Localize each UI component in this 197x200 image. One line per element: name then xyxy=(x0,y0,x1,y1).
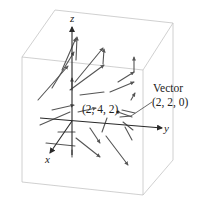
vector-field-figure: z y x (2, 4, 2) Vector (2, 2, 0) xyxy=(0,0,197,200)
coordinate-axes xyxy=(40,27,162,155)
y-axis-label: y xyxy=(163,122,169,134)
vector-components-label: (2, 2, 0) xyxy=(152,96,189,109)
point-label: (2, 4, 2) xyxy=(82,103,119,116)
z-axis-label: z xyxy=(69,12,75,24)
leader-line xyxy=(131,102,152,116)
x-axis-label: x xyxy=(44,153,50,165)
vector-field-arrows xyxy=(38,37,135,165)
y-axis xyxy=(40,118,162,128)
vector-title: Vector xyxy=(153,82,183,94)
x-axis xyxy=(50,121,72,153)
